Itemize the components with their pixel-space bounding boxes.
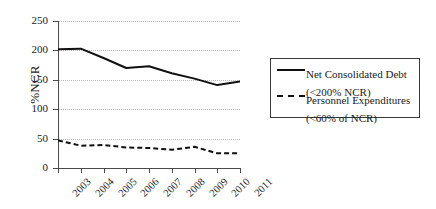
y-tick-100 (53, 109, 58, 110)
y-tick-label-150: 150 (18, 74, 48, 85)
x-tick-2009 (195, 168, 196, 173)
y-tick-200 (53, 50, 58, 51)
y-tick-150 (53, 80, 58, 81)
y-tick-label-200: 200 (18, 44, 48, 55)
y-tick-50 (53, 139, 58, 140)
x-tick-label-2004: 2004 (93, 176, 116, 199)
x-tick-2004 (81, 168, 82, 173)
legend-label-personnel-expenditures: Personnel Expenditures (306, 94, 410, 106)
x-tick-2010 (217, 168, 218, 173)
x-tick-label-2011: 2011 (252, 176, 274, 198)
x-tick-2003 (58, 168, 59, 173)
series-layer (58, 21, 240, 168)
x-tick-2007 (149, 168, 150, 173)
x-tick-2008 (172, 168, 173, 173)
solid-line-sample (276, 64, 306, 76)
x-tick-2005 (104, 168, 105, 173)
x-tick-label-2010: 2010 (229, 176, 252, 199)
y-tick-label-0: 0 (18, 162, 48, 173)
y-tick-label-50: 50 (18, 133, 48, 144)
x-tick-label-2008: 2008 (184, 176, 207, 199)
x-tick-2011 (240, 168, 241, 173)
x-tick-label-2006: 2006 (138, 176, 161, 199)
legend-label-net-consolidated-debt: Net Consolidated Debt (306, 68, 407, 80)
y-tick-250 (53, 21, 58, 22)
x-tick-label-2003: 2003 (70, 176, 93, 199)
dashed-line-sample (276, 90, 306, 102)
x-tick-2006 (126, 168, 127, 173)
series-personnel-expenditures-line (58, 140, 240, 153)
series-net-consolidated-debt-line (58, 49, 240, 85)
legend-entry-personnel-expenditures: Personnel Expenditures (<60% of NCR) (276, 90, 410, 126)
x-tick-label-2009: 2009 (207, 176, 230, 199)
legend-sublabel-personnel-expenditures: (<60% of NCR) (306, 112, 377, 124)
chart-legend: Net Consolidated Debt (<200% NCR) Person… (270, 58, 420, 118)
y-tick-label-250: 250 (18, 15, 48, 26)
x-tick-label-2005: 2005 (116, 176, 139, 199)
x-tick-label-2007: 2007 (161, 176, 184, 199)
line-chart-figure: %NCR Net Consolidated Debt (<200% NCR) P… (0, 0, 436, 209)
y-tick-label-100: 100 (18, 103, 48, 114)
